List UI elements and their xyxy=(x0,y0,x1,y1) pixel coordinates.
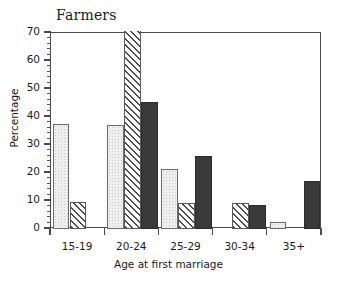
chart-figure: Farmers 010203040506070 Percentage 15-19… xyxy=(0,0,337,282)
chart-title: Farmers xyxy=(56,7,117,23)
y-axis-tick-minor xyxy=(47,166,51,167)
x-axis-tick xyxy=(49,228,50,235)
y-axis-tick-major xyxy=(44,115,51,116)
x-axis-tick-label: 35+ xyxy=(283,240,305,252)
y-axis-tick-major xyxy=(44,59,51,60)
y-axis-tick-minor xyxy=(47,183,51,184)
bar-20-24-series-2 xyxy=(124,31,141,229)
y-axis-tick-label: 10 xyxy=(8,193,40,205)
y-axis-tick-major xyxy=(44,31,51,32)
y-axis-tick-major xyxy=(44,143,51,144)
x-axis-tick xyxy=(104,228,105,235)
y-axis-tick-minor xyxy=(47,216,51,217)
x-axis-tick-label: 15-19 xyxy=(62,240,93,252)
y-axis-tick-minor xyxy=(47,71,51,72)
x-axis-title: Age at first marriage xyxy=(0,258,337,270)
bar-25-29-series-3 xyxy=(195,156,212,229)
y-axis-tick-label: 60 xyxy=(8,53,40,65)
y-axis-tick-minor xyxy=(47,127,51,128)
y-axis-tick-label: 20 xyxy=(8,165,40,177)
y-axis-labels: 010203040506070 xyxy=(0,0,40,282)
y-axis-tick-minor xyxy=(47,104,51,105)
y-axis-tick-minor xyxy=(47,37,51,38)
x-axis-tick xyxy=(158,228,159,235)
y-axis-tick-minor xyxy=(47,149,51,150)
y-axis-tick-minor xyxy=(47,54,51,55)
bar-20-24-series-1 xyxy=(107,125,124,229)
x-axis-tick-label: 25-29 xyxy=(170,240,201,252)
y-axis-tick-label: 0 xyxy=(8,221,40,233)
y-axis-tick-minor xyxy=(47,222,51,223)
y-axis-tick-major xyxy=(44,87,51,88)
y-axis-tick-minor xyxy=(47,155,51,156)
bar-20-24-series-3 xyxy=(141,102,158,229)
y-axis-tick-label: 70 xyxy=(8,25,40,37)
bar-35plus-series-3 xyxy=(304,181,321,229)
y-axis-tick-minor xyxy=(47,76,51,77)
y-axis-tick-minor xyxy=(47,43,51,44)
y-axis-tick-minor xyxy=(47,110,51,111)
y-axis-tick-minor xyxy=(47,132,51,133)
x-axis-tick-label: 20-24 xyxy=(116,240,147,252)
y-axis-tick-minor xyxy=(47,205,51,206)
bar-group-container xyxy=(51,33,322,229)
bar-15-19-series-1 xyxy=(53,124,70,229)
y-axis-tick-major xyxy=(44,171,51,172)
y-axis-tick-minor xyxy=(47,177,51,178)
x-axis-tick xyxy=(266,228,267,235)
bar-30-34-series-2 xyxy=(232,203,249,229)
x-axis-tick xyxy=(320,228,321,235)
bar-15-19-series-2 xyxy=(70,202,87,229)
x-axis-tick-label: 30-34 xyxy=(224,240,255,252)
y-axis-tick-minor xyxy=(47,99,51,100)
plot-area xyxy=(50,32,321,228)
y-axis-tick-minor xyxy=(47,48,51,49)
bar-25-29-series-2 xyxy=(178,203,195,229)
y-axis-tick-minor xyxy=(47,188,51,189)
bar-25-29-series-1 xyxy=(161,169,178,229)
y-axis-tick-minor xyxy=(47,160,51,161)
x-axis-tick xyxy=(212,228,213,235)
y-axis-tick-minor xyxy=(47,65,51,66)
y-axis-tick-minor xyxy=(47,194,51,195)
bar-30-34-series-3 xyxy=(249,205,266,229)
bar-35plus-series-1 xyxy=(270,222,287,229)
y-axis-tick-minor xyxy=(47,82,51,83)
y-axis-title: Percentage xyxy=(8,72,20,164)
y-axis-tick-major xyxy=(44,199,51,200)
y-axis-tick-minor xyxy=(47,211,51,212)
y-axis-tick-minor xyxy=(47,121,51,122)
y-axis-tick-minor xyxy=(47,93,51,94)
y-axis-tick-minor xyxy=(47,138,51,139)
